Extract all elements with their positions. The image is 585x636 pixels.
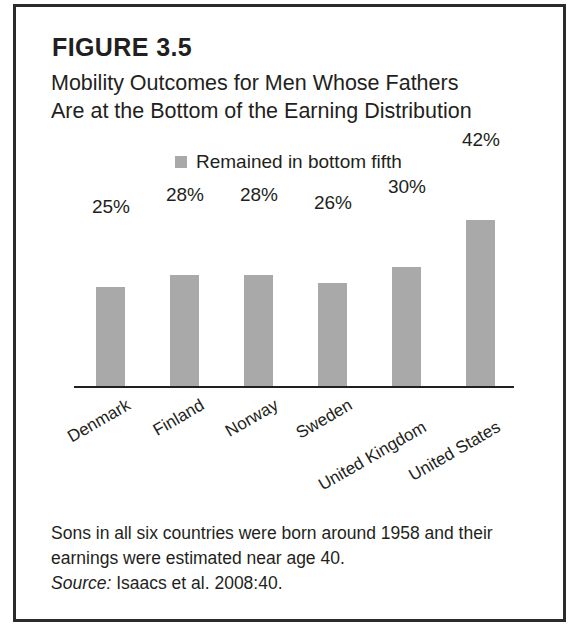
bar-value-label: 42% bbox=[444, 129, 518, 151]
bar-finland bbox=[170, 275, 199, 386]
bar-slot: 25% bbox=[74, 192, 148, 386]
x-axis-category-labels: Denmark Finland Norway Sweden United Kin… bbox=[74, 390, 534, 500]
x-axis-baseline bbox=[74, 386, 514, 388]
legend-swatch-icon bbox=[175, 156, 187, 168]
legend-item-label: Remained in bottom fifth bbox=[196, 151, 402, 173]
chart-legend: Remained in bottom fifth bbox=[175, 151, 402, 173]
bar-slot: 42% bbox=[444, 192, 518, 386]
bar-value-label: 26% bbox=[296, 192, 370, 214]
bar-value-label: 25% bbox=[74, 196, 148, 218]
bar-value-label: 28% bbox=[148, 184, 222, 206]
footnote-source-text: Isaacs et al. 2008:40. bbox=[111, 573, 282, 593]
x-tick-label-united-states: United States bbox=[364, 417, 504, 509]
bar-slot: 30% bbox=[370, 192, 444, 386]
bar-slot: 28% bbox=[222, 192, 296, 386]
page-title: FIGURE 3.5 bbox=[52, 33, 192, 62]
bar-slot: 26% bbox=[296, 192, 370, 386]
bar-value-label: 28% bbox=[222, 184, 296, 206]
figure-frame: FIGURE 3.5 Mobility Outcomes for Men Who… bbox=[13, 4, 566, 622]
bar-chart-plot-area: 25% 28% 28% 26% 30% 42% bbox=[74, 192, 514, 388]
bar-united-kingdom bbox=[392, 267, 421, 386]
bar-sweden bbox=[318, 283, 347, 386]
figure-subtitle: Mobility Outcomes for Men Whose Fathers … bbox=[51, 69, 551, 125]
footnote-source-label: Source: bbox=[51, 573, 111, 593]
bar-united-states bbox=[466, 220, 495, 386]
figure-subtitle-line-2: Are at the Bottom of the Earning Distrib… bbox=[51, 97, 551, 125]
footnote-source: Source: Isaacs et al. 2008:40. bbox=[51, 571, 546, 596]
figure-subtitle-line-1: Mobility Outcomes for Men Whose Fathers bbox=[51, 69, 551, 97]
bar-denmark bbox=[96, 287, 125, 386]
bar-norway bbox=[244, 275, 273, 386]
bar-slot: 28% bbox=[148, 192, 222, 386]
bar-value-label: 30% bbox=[370, 176, 444, 198]
figure-footnote: Sons in all six countries were born arou… bbox=[51, 521, 546, 596]
figure-page: FIGURE 3.5 Mobility Outcomes for Men Who… bbox=[0, 0, 585, 636]
footnote-note: Sons in all six countries were born arou… bbox=[51, 521, 546, 571]
